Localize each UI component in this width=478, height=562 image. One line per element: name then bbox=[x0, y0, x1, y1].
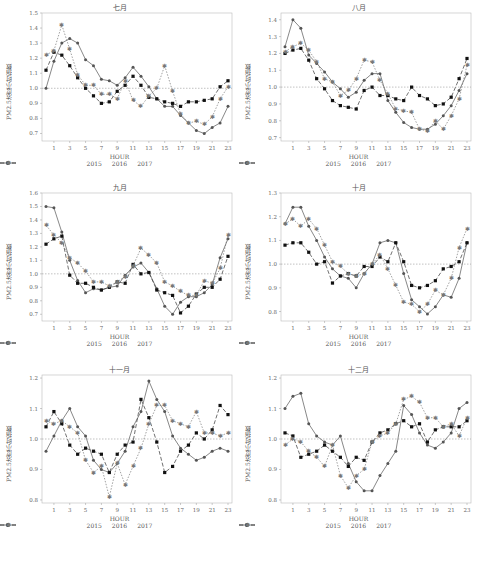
square-marker bbox=[283, 244, 286, 247]
star-marker: ✱ bbox=[138, 102, 143, 109]
dot-marker bbox=[410, 413, 413, 416]
square-marker bbox=[124, 84, 127, 87]
square-marker bbox=[410, 425, 413, 428]
y-tick-label: 0.9 bbox=[29, 284, 38, 290]
square-marker bbox=[402, 260, 405, 263]
star-marker: ✱ bbox=[417, 308, 422, 315]
legend-label: 2015 bbox=[326, 522, 341, 529]
dot-marker bbox=[211, 450, 214, 453]
square-marker bbox=[44, 69, 47, 72]
square-marker bbox=[457, 260, 460, 263]
star-marker: ✱ bbox=[218, 432, 223, 439]
star-marker: ✱ bbox=[425, 300, 430, 307]
star-marker: ✱ bbox=[178, 420, 183, 427]
square-marker bbox=[203, 286, 206, 289]
dot-marker bbox=[163, 105, 166, 108]
square-marker bbox=[60, 235, 63, 238]
dot-marker bbox=[76, 279, 79, 282]
dot-marker bbox=[347, 96, 350, 99]
x-tick-label: 13 bbox=[145, 145, 152, 151]
star-marker: ✱ bbox=[385, 429, 390, 436]
square-marker bbox=[179, 105, 182, 108]
star-marker: ✱ bbox=[115, 459, 120, 466]
star-marker: ✱ bbox=[377, 432, 382, 439]
x-tick-label: 1 bbox=[291, 507, 295, 513]
square-marker bbox=[307, 251, 310, 254]
square-marker bbox=[323, 443, 326, 446]
star-marker: ✱ bbox=[146, 251, 151, 258]
star-marker: ✱ bbox=[330, 441, 335, 448]
y-tick-label: 1.3 bbox=[29, 40, 38, 46]
star-marker: ✱ bbox=[202, 277, 207, 284]
legend-label: 2017 bbox=[137, 160, 152, 167]
y-tick-label: 1.0 bbox=[29, 85, 38, 91]
star-marker: ✱ bbox=[441, 423, 446, 430]
x-tick-label: 1 bbox=[52, 507, 56, 513]
star-marker: ✱ bbox=[131, 262, 136, 269]
y-tick-label: 0.8 bbox=[29, 497, 38, 503]
star-marker: ✱ bbox=[75, 71, 80, 78]
star-marker: ✱ bbox=[401, 107, 406, 114]
dot-marker bbox=[132, 66, 135, 69]
x-tick-label: 23 bbox=[225, 145, 232, 151]
y-tick-label: 1.2 bbox=[268, 214, 277, 220]
star-marker: ✱ bbox=[202, 120, 207, 127]
dot-marker bbox=[307, 225, 310, 228]
x-tick-label: 3 bbox=[68, 145, 72, 151]
star-marker: ✱ bbox=[417, 398, 422, 405]
star-marker: ✱ bbox=[210, 429, 215, 436]
legend-label: 2016 bbox=[112, 522, 127, 529]
square-marker bbox=[394, 97, 397, 100]
square-marker bbox=[139, 398, 142, 401]
square-marker bbox=[418, 422, 421, 425]
dot-marker bbox=[124, 450, 127, 453]
x-tick-label: 11 bbox=[369, 507, 376, 513]
square-marker bbox=[100, 102, 103, 105]
square-marker bbox=[402, 99, 405, 102]
legend-item-2017: ✱2017 bbox=[376, 522, 391, 529]
legend-item-2017: ✱2017 bbox=[137, 522, 152, 529]
y-tick-label: 1.5 bbox=[29, 10, 38, 16]
x-tick-label: 15 bbox=[400, 145, 407, 151]
dot-marker bbox=[52, 60, 55, 63]
x-tick-label: 13 bbox=[384, 507, 391, 513]
dot-marker bbox=[227, 105, 230, 108]
star-marker: ✱ bbox=[226, 429, 231, 436]
dot-marker bbox=[363, 79, 366, 82]
x-tick-label: 21 bbox=[209, 325, 216, 331]
square-marker bbox=[434, 279, 437, 282]
dot-marker bbox=[355, 286, 358, 289]
chart-panel-4: 十月PM2.5浓度小时指数0.80.91.01.11.21.3135791113… bbox=[239, 182, 478, 362]
square-marker bbox=[426, 97, 429, 100]
square-marker bbox=[108, 100, 111, 103]
x-tick-label: 9 bbox=[354, 325, 358, 331]
y-tick-label: 0.9 bbox=[29, 100, 38, 106]
legend-item-2016: 2016 bbox=[351, 522, 366, 529]
square-marker bbox=[171, 102, 174, 105]
x-tick-label: 17 bbox=[177, 507, 184, 513]
x-tick-label: 3 bbox=[307, 507, 311, 513]
x-tick-label: 7 bbox=[339, 325, 343, 331]
square-marker bbox=[163, 471, 166, 474]
x-tick-label: 15 bbox=[161, 145, 168, 151]
x-tick-label: 19 bbox=[193, 507, 200, 513]
star-marker: ✱ bbox=[338, 262, 343, 269]
x-tick-label: 7 bbox=[100, 145, 104, 151]
square-marker bbox=[331, 281, 334, 284]
square-marker bbox=[331, 99, 334, 102]
x-tick-label: 21 bbox=[448, 507, 455, 513]
dot-marker bbox=[84, 291, 87, 294]
legend-item-2017: ✱2017 bbox=[137, 160, 152, 167]
square-marker bbox=[163, 291, 166, 294]
star-marker: ✱ bbox=[385, 265, 390, 272]
dot-marker bbox=[179, 301, 182, 304]
star-marker: ✱ bbox=[362, 465, 367, 472]
square-marker bbox=[131, 440, 134, 443]
y-tick-label: 1.6 bbox=[29, 190, 38, 196]
square-marker bbox=[203, 99, 206, 102]
star-marker: ✱ bbox=[346, 270, 351, 277]
dot-marker bbox=[171, 105, 174, 108]
x-tick-label: 19 bbox=[193, 325, 200, 331]
star-marker: ✱ bbox=[194, 291, 199, 298]
square-marker bbox=[155, 440, 158, 443]
